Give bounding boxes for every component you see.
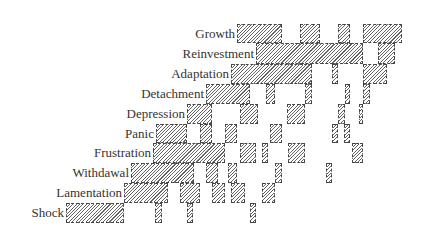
stage-bar <box>153 143 225 163</box>
row-label: Shock <box>32 205 65 221</box>
stage-bar <box>332 124 338 143</box>
row-label: Frustration <box>94 145 151 161</box>
stage-bar <box>206 84 250 104</box>
row-label: Depression <box>127 106 186 122</box>
stage-bar <box>225 124 237 143</box>
row-label: Adaptation <box>171 66 229 82</box>
stage-timeline-chart: GrowthReinvestmentAdaptationDetachmentDe… <box>0 0 423 243</box>
stage-bar <box>352 143 363 163</box>
stage-bar <box>344 124 350 143</box>
stage-bar <box>187 104 212 124</box>
stage-bar <box>345 84 350 104</box>
stage-bar <box>363 64 387 84</box>
stage-bar <box>206 163 218 183</box>
stage-bar <box>124 183 168 203</box>
stage-bar <box>250 203 256 223</box>
stage-bar <box>187 203 193 223</box>
stage-bar <box>378 43 395 64</box>
stage-bar <box>332 64 338 84</box>
stage-bar <box>256 43 363 64</box>
row-label: Growth <box>195 26 235 42</box>
stage-bar <box>305 84 312 104</box>
stage-bar <box>338 24 350 43</box>
stage-bar <box>240 143 256 163</box>
row-label: Lamentation <box>56 185 122 201</box>
stage-bar <box>200 124 212 143</box>
row-label: Panic <box>125 126 154 142</box>
row-label: Reinvestment <box>183 46 255 62</box>
stage-bar <box>231 183 245 203</box>
row-label: Detachment <box>141 86 204 102</box>
row-label: Withdawal <box>72 165 129 181</box>
stage-bar <box>66 203 124 223</box>
stage-bar <box>262 183 275 203</box>
stage-bar <box>275 163 282 183</box>
stage-bar <box>270 124 282 143</box>
stage-bar <box>237 24 282 43</box>
stage-bar <box>212 183 225 203</box>
stage-bar <box>231 64 312 84</box>
stage-bar <box>359 104 363 124</box>
stage-bar <box>300 24 320 43</box>
stage-bar <box>338 104 345 124</box>
stage-bar <box>131 163 194 183</box>
stage-bar <box>240 104 258 124</box>
stage-bar <box>363 24 402 43</box>
stage-bar <box>288 143 305 163</box>
stage-bar <box>156 124 187 143</box>
stage-bar <box>363 84 370 104</box>
stage-bar <box>287 104 305 124</box>
stage-bar <box>262 143 268 163</box>
stage-bar <box>155 203 162 223</box>
stage-bar <box>180 183 200 203</box>
stage-bar <box>266 84 275 104</box>
stage-bar <box>228 163 237 183</box>
stage-bar <box>326 163 332 183</box>
